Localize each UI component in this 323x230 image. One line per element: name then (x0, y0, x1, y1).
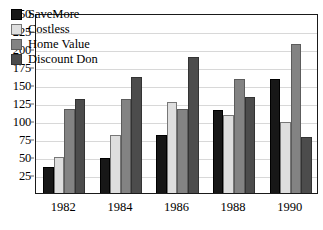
bar-home-value-1982[interactable] (64, 109, 75, 193)
legend-swatch-icon (11, 24, 22, 35)
y-axis-tick-mark (30, 86, 34, 87)
x-axis-tick-label: 1990 (277, 200, 302, 215)
bar-discount-don-1988[interactable] (245, 97, 256, 193)
bar-home-value-1986[interactable] (177, 109, 188, 193)
bar-discount-don-1984[interactable] (131, 77, 142, 193)
legend-item-label: Costless (28, 23, 70, 36)
y-axis-tick-label: 100 (13, 115, 31, 130)
bar-group-1988 (213, 15, 255, 193)
x-axis: 19821984198619881990 (35, 196, 318, 220)
y-axis-tick-mark (30, 122, 34, 123)
legend-swatch-icon (11, 9, 22, 20)
bar-costless-1988[interactable] (223, 115, 234, 193)
bar-group-1984 (100, 15, 142, 193)
x-axis-tick-label: 1984 (107, 200, 132, 215)
bar-home-value-1988[interactable] (234, 79, 245, 193)
y-axis-tick-label: 150 (13, 79, 31, 94)
legend-item-label: Home Value (28, 38, 90, 51)
y-axis-tick-mark (30, 104, 34, 105)
bar-savemore-1982[interactable] (43, 167, 54, 193)
legend-item-label: SaveMore (28, 8, 79, 21)
bar-discount-don-1982[interactable] (75, 99, 86, 193)
x-axis-tick-label: 1988 (221, 200, 246, 215)
y-axis-tick-mark (30, 176, 34, 177)
bar-group-1986 (156, 15, 198, 193)
legend-item-label: Discount Don (28, 53, 98, 66)
legend-item-savemore[interactable]: SaveMore (11, 7, 98, 21)
legend-swatch-icon (11, 54, 22, 65)
legend-item-costless[interactable]: Costless (11, 22, 98, 36)
y-axis-tick-mark (30, 158, 34, 159)
chart-legend: SaveMoreCostlessHome ValueDiscount Don (11, 7, 98, 66)
legend-item-discount-don[interactable]: Discount Don (11, 52, 98, 66)
x-axis-tick-label: 1982 (51, 200, 76, 215)
bar-costless-1990[interactable] (280, 122, 291, 193)
bar-discount-don-1990[interactable] (301, 137, 312, 193)
bar-group-1990 (270, 15, 312, 193)
y-axis-tick-mark (30, 68, 34, 69)
bar-costless-1982[interactable] (54, 157, 65, 193)
y-axis-tick-mark (30, 140, 34, 141)
bar-savemore-1984[interactable] (100, 158, 111, 193)
bar-costless-1984[interactable] (110, 135, 121, 193)
bar-chart: 255075100125150175200225250 SaveMoreCost… (0, 0, 323, 230)
bar-costless-1986[interactable] (167, 102, 178, 193)
bar-home-value-1990[interactable] (291, 44, 302, 193)
bar-savemore-1988[interactable] (213, 110, 224, 193)
y-axis-tick-label: 125 (13, 97, 31, 112)
bar-savemore-1990[interactable] (270, 79, 281, 193)
x-axis-tick-label: 1986 (164, 200, 189, 215)
legend-swatch-icon (11, 39, 22, 50)
bar-discount-don-1986[interactable] (188, 57, 199, 193)
bar-savemore-1986[interactable] (156, 135, 167, 193)
bar-home-value-1984[interactable] (121, 99, 132, 193)
legend-item-home-value[interactable]: Home Value (11, 37, 98, 51)
